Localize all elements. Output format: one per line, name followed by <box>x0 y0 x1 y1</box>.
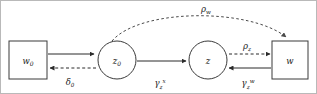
edge-label-rho-z-sub: z <box>247 46 251 52</box>
edge-label-rho-w-sub: w <box>206 9 211 15</box>
edge-label-rho-w: ρw <box>200 4 211 15</box>
node-z0-label-sub: 0 <box>117 59 121 66</box>
graphical-model-diagram: w0 z0 z w ρw ρz δ0 γzx γzw <box>0 0 317 94</box>
edge-label-gamma-z-w-sub: z <box>246 84 250 90</box>
edge-label-gamma-z-x-sup: x <box>162 78 166 84</box>
edge-label-gamma-z-w-sup: w <box>250 78 255 84</box>
node-w-label: w <box>286 56 294 66</box>
node-w0-label-sub: 0 <box>30 59 34 66</box>
edge-z0-to-w-arc <box>112 16 286 41</box>
edge-label-gamma-z-x: γzx <box>154 78 166 90</box>
edge-label-delta-0-sub: 0 <box>71 82 75 88</box>
edge-label-delta-0: δ0 <box>66 77 75 88</box>
edge-label-rho-z: ρz <box>242 41 251 52</box>
node-z-label: z <box>205 56 211 66</box>
edge-label-gamma-z-w: γzw <box>242 78 255 90</box>
edge-label-gamma-z-x-sub: z <box>158 84 162 90</box>
